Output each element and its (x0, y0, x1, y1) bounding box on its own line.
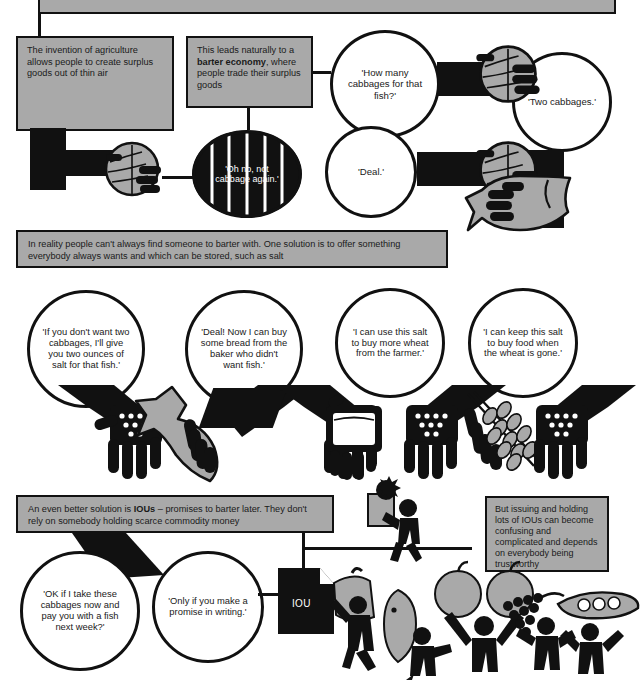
panel-barter-economy: This leads naturally to a barter economy… (186, 36, 313, 108)
panel-iou-banner: An even better solution is IOUs – promis… (16, 495, 334, 533)
panel-salt-banner: In reality people can't always find some… (16, 230, 448, 268)
connector-hand-to-ohno (162, 176, 196, 179)
panel-agriculture: The invention of agriculture allows peop… (16, 36, 174, 131)
iou-document-label: IOU (292, 598, 311, 609)
bubble-take-cabbages-now: 'OK if I take these cabbages now and pay… (20, 551, 140, 671)
bubble-promise-writing-text: 'Only if you make a promise in writing.' (167, 596, 249, 618)
panel-iou-text-bold: IOUs (134, 504, 155, 514)
bubble-deal-text: 'Deal.' (358, 166, 384, 177)
bubble-deal-bread-text: 'Deal! Now I can buy some bread from the… (199, 327, 289, 371)
panel-agriculture-text: The invention of agriculture allows peop… (27, 45, 163, 80)
connector-document-drop (302, 547, 305, 569)
panel-salt-banner-text: In reality people can't always find some… (28, 239, 400, 261)
panel-iou-text-before: An even better solution is (28, 504, 134, 514)
connector-barter-to-ohno (247, 108, 250, 130)
bubble-take-cabbages-now-text: 'OK if I take these cabbages now and pay… (35, 589, 125, 633)
top-banner-cutoff (38, 0, 616, 14)
person-icon-carrying-peapod (556, 586, 644, 680)
cabbage-icon-upper-right (470, 42, 546, 106)
bubble-buy-wheat-text: 'I can use this salt to buy more wheat f… (349, 327, 431, 360)
bubble-deal: 'Deal.' (325, 126, 417, 218)
fish-icon-barter (462, 168, 582, 246)
cabbage-icon-left (96, 140, 168, 198)
bubble-two-ounces-salt-text: 'If you don't want two cabbages, I'll gi… (42, 327, 130, 371)
bubble-keep-salt-text: 'I can keep this salt to buy food when t… (482, 327, 564, 360)
cage-bars-icon (192, 130, 302, 218)
bubble-how-many-cabbages: 'How many cabbages for that fish?' (330, 30, 440, 138)
bubble-how-many-cabbages-text: 'How many cabbages for that fish?' (347, 67, 423, 100)
panel-barter-text-bold: barter economy (197, 57, 266, 67)
person-icon-carrying-spiky-fruit (360, 482, 440, 568)
bubble-keep-salt: 'I can keep this salt to buy food when t… (468, 288, 578, 398)
panel-barter-text-before: This leads naturally to a (197, 45, 294, 55)
bubble-promise-writing: 'Only if you make a promise in writing.' (152, 551, 264, 663)
connector-top-to-agriculture (38, 14, 41, 38)
bubble-buy-wheat: 'I can use this salt to buy more wheat f… (335, 288, 445, 398)
hand-salt-fifth (512, 383, 642, 483)
connector-barter-to-howmany (313, 71, 331, 74)
